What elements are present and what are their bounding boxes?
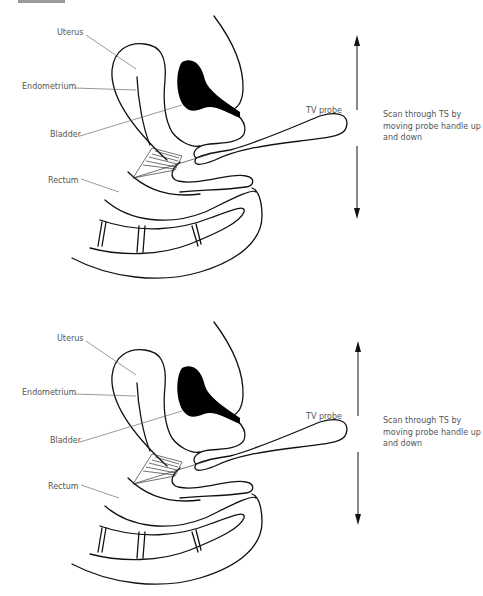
vaginal-wall xyxy=(172,162,253,192)
anatomy-illustration xyxy=(0,0,479,290)
label-uterus: Uterus xyxy=(57,334,83,344)
sacrum-outline xyxy=(90,514,244,559)
label-rectum: Rectum xyxy=(48,176,79,186)
vertebra-lines xyxy=(98,528,201,558)
label-bladder: Bladder xyxy=(50,130,81,140)
bladder-fill xyxy=(177,366,240,424)
label-endometrium: Endometrium xyxy=(22,82,76,92)
arrow-up-head xyxy=(354,35,360,46)
arrow-up-head xyxy=(355,341,361,352)
label-endometrium: Endometrium xyxy=(22,388,76,398)
label-bladder: Bladder xyxy=(50,436,81,446)
bladder-outline xyxy=(194,416,245,464)
abdominal-wall xyxy=(214,16,243,110)
scan-instruction-note: Scan through TS by moving probe handle u… xyxy=(383,415,483,450)
tv-probe xyxy=(195,114,347,165)
vaginal-wall xyxy=(172,468,253,498)
label-tv-probe: TV probe xyxy=(306,106,342,116)
label-uterus: Uterus xyxy=(57,28,83,38)
abdominal-wall xyxy=(214,322,243,416)
arrow-down-head xyxy=(354,208,360,219)
endometrium-line xyxy=(137,383,150,451)
tv-probe xyxy=(195,420,347,471)
arrow-down-head xyxy=(355,514,361,525)
label-tv-probe: TV probe xyxy=(306,412,342,422)
endometrium-line xyxy=(137,77,150,145)
diagram-panel-1: Uterus Endometrium Bladder Rectum TV pro… xyxy=(0,0,479,290)
bladder-fill xyxy=(177,60,240,118)
anatomy-illustration xyxy=(0,306,479,596)
bladder-outline xyxy=(194,110,245,158)
sacrum-outline xyxy=(90,208,244,253)
vertebra-lines xyxy=(98,222,201,252)
scan-instruction-note: Scan through TS by moving probe handle u… xyxy=(383,109,483,144)
label-rectum: Rectum xyxy=(48,482,79,492)
diagram-panel-2: Uterus Endometrium Bladder Rectum TV pro… xyxy=(0,306,479,596)
